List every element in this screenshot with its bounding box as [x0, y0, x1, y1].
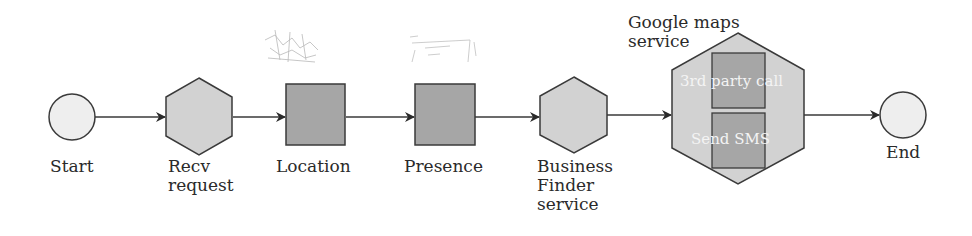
third-party-call-label: 3rd party call	[680, 72, 783, 90]
end-label: End	[886, 142, 920, 162]
location-label: Location	[276, 156, 351, 176]
business-label-line1: Business	[537, 156, 613, 176]
google-label-line2: service	[628, 31, 690, 51]
start-node[interactable]	[49, 94, 95, 140]
business-label-line2: Finder	[537, 175, 595, 195]
presence-sketch-icon	[410, 36, 476, 62]
recv-label-line1: Recv	[168, 156, 210, 176]
recv-label-line2: request	[168, 175, 234, 195]
recv-request-node[interactable]	[166, 78, 232, 155]
map-sketch-icon	[265, 30, 318, 62]
workflow-diagram: Start Recv request Location Presence Bus…	[0, 0, 972, 236]
end-node[interactable]	[880, 92, 926, 138]
business-finder-node[interactable]	[540, 77, 607, 153]
google-label-line1: Google maps	[628, 12, 740, 32]
business-label-line3: service	[537, 194, 599, 214]
send-sms-label: Send SMS	[691, 130, 770, 148]
location-node[interactable]	[286, 84, 345, 145]
presence-label: Presence	[404, 156, 483, 176]
presence-node[interactable]	[415, 84, 475, 145]
start-label: Start	[50, 156, 94, 176]
